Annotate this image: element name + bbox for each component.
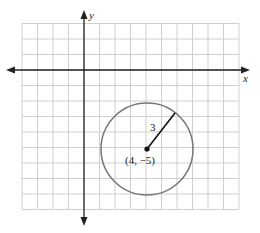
x-axis-label: x <box>242 72 248 84</box>
y-axis-label: y <box>88 9 94 21</box>
grid-lines <box>22 24 239 210</box>
y-axis-up-arrow-icon <box>81 10 88 19</box>
radius-label: 3 <box>150 121 156 133</box>
x-axis-left-arrow-icon <box>6 67 15 74</box>
center-point <box>144 146 149 151</box>
center-label: (4, −5) <box>125 154 155 167</box>
y-axis-down-arrow-icon <box>81 217 88 226</box>
coordinate-plane: x y 3 (4, −5) <box>0 0 260 233</box>
